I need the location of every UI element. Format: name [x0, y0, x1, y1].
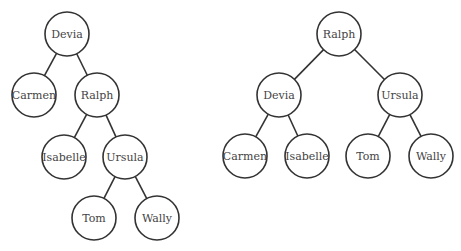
- edge-devia-carmen: [256, 114, 269, 137]
- tree-after-rotation: RalphDeviaUrsulaCarmenIsabelleTomWally: [223, 12, 453, 178]
- node-label: Ursula: [106, 151, 144, 164]
- node-label: Carmen: [12, 89, 56, 102]
- tree-node-ralph: Ralph: [75, 73, 119, 117]
- tree-before-rotation: DeviaCarmenRalphIsabelleUrsulaTomWally: [12, 12, 179, 240]
- tree-node-wally: Wally: [135, 196, 179, 240]
- tree-node-isabelle: Isabelle: [285, 134, 329, 178]
- edge-devia-ralph: [77, 54, 88, 76]
- node-label: Wally: [416, 150, 447, 163]
- tree-node-ursula: Ursula: [103, 135, 147, 179]
- tree-node-ralph: Ralph: [317, 12, 361, 56]
- edge-ursula-wally: [410, 115, 421, 137]
- node-label: Ralph: [323, 28, 356, 41]
- node-label: Ralph: [81, 89, 114, 102]
- node-label: Carmen: [223, 150, 267, 163]
- tree-node-devia: Devia: [45, 12, 89, 56]
- node-label: Isabelle: [285, 150, 329, 163]
- tree-node-tom: Tom: [72, 196, 116, 240]
- node-label: Devia: [51, 28, 83, 41]
- tree-node-carmen: Carmen: [12, 73, 56, 117]
- edge-ralph-ursula: [106, 115, 116, 137]
- edge-ursula-tom: [378, 114, 390, 136]
- edge-ralph-ursula: [355, 50, 385, 80]
- node-label: Wally: [142, 212, 173, 225]
- edge-devia-carmen: [44, 53, 56, 75]
- tree-node-tom: Tom: [346, 134, 390, 178]
- tree-node-wally: Wally: [409, 134, 453, 178]
- node-label: Isabelle: [42, 151, 86, 164]
- tree-node-ursula: Ursula: [378, 73, 422, 117]
- tree-node-devia: Devia: [257, 73, 301, 117]
- node-label: Tom: [82, 212, 106, 225]
- edge-devia-isabelle: [288, 115, 298, 136]
- edge-ralph-devia: [294, 50, 323, 80]
- node-label: Ursula: [381, 89, 419, 102]
- edge-ursula-tom: [104, 177, 115, 199]
- node-label: Tom: [356, 150, 380, 163]
- edge-ralph-isabelle: [74, 114, 86, 137]
- tree-node-isabelle: Isabelle: [42, 135, 86, 179]
- tree-node-carmen: Carmen: [223, 134, 267, 178]
- node-label: Devia: [263, 89, 295, 102]
- edge-ursula-wally: [135, 176, 147, 198]
- tree-diagram-canvas: DeviaCarmenRalphIsabelleUrsulaTomWally R…: [0, 0, 461, 251]
